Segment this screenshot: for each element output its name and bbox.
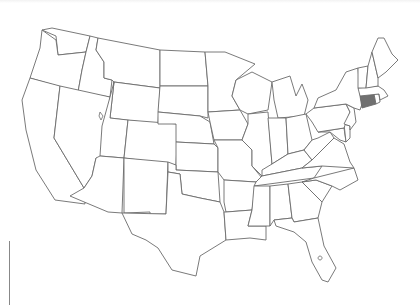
state-kansas[interactable] xyxy=(176,142,218,172)
left-edge-rule xyxy=(9,241,10,305)
state-iowa[interactable] xyxy=(208,110,248,140)
state-colorado[interactable] xyxy=(124,120,178,165)
state-wyoming[interactable] xyxy=(110,82,160,124)
state-pennsylvania[interactable] xyxy=(306,104,350,132)
state-new-mexico[interactable] xyxy=(124,158,168,214)
state-arkansas[interactable] xyxy=(224,180,256,212)
state-michigan[interactable] xyxy=(272,76,308,118)
state-florida[interactable] xyxy=(274,218,336,282)
map-svg xyxy=(0,0,420,305)
us-outline-map xyxy=(0,0,420,305)
state-new-york[interactable] xyxy=(314,68,362,110)
state-north-dakota[interactable] xyxy=(160,50,208,86)
